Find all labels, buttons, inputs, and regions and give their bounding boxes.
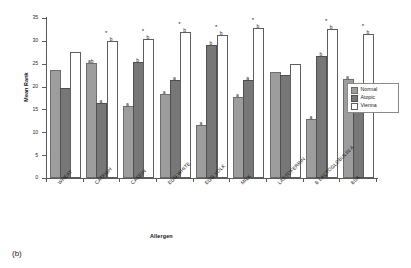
legend-swatch-atopic — [351, 95, 358, 102]
plot-area: abab*abb*aab*abb*aab*abb*aab* — [46, 18, 376, 178]
figure-container: 05101520253035 Mean Rank Allergen abab*a… — [0, 0, 411, 268]
bar-annotation-letter: b — [362, 30, 374, 35]
x-axis-tick — [193, 178, 194, 182]
significance-marker: * — [137, 28, 149, 34]
x-axis-tick — [376, 178, 377, 182]
significance-marker: * — [247, 17, 259, 23]
bar-group — [46, 18, 83, 178]
y-axis-tick-label: 25 — [0, 61, 38, 66]
x-axis-tick — [83, 178, 84, 182]
significance-marker: * — [320, 18, 332, 24]
significance-marker: * — [210, 24, 222, 30]
bar-annotation-letter: b — [325, 25, 337, 30]
y-axis-tick-label: 0 — [0, 175, 38, 180]
y-axis-tick-label: 15 — [0, 107, 38, 112]
bar-annotation-letter: a — [195, 121, 207, 126]
x-axis-title: Allergen — [150, 233, 173, 239]
bar-annotation-letter: a — [242, 76, 254, 81]
bar-annotation-letter: b — [315, 52, 327, 57]
bar-group: abb* — [119, 18, 156, 178]
bar-group: aab* — [229, 18, 266, 178]
legend-swatch-vienna — [351, 103, 358, 110]
bar-vienna — [217, 35, 228, 178]
x-axis-tick — [303, 178, 304, 182]
bar-annotation-letter: b — [132, 58, 144, 63]
legend-item-vienna: Vienna — [351, 102, 396, 110]
significance-marker: * — [357, 23, 369, 29]
legend-label-atopic: Atopic — [361, 95, 375, 100]
legend-item-normal: Normal — [351, 86, 396, 94]
legend-item-atopic: Atopic — [351, 94, 396, 102]
bar-annotation-letter: a — [95, 99, 107, 104]
bar-group: abb* — [303, 18, 340, 178]
bar-annotation-letter: b — [252, 24, 264, 29]
bar-annotation-letter: b — [105, 37, 117, 42]
bar-group — [266, 18, 303, 178]
bar-vienna — [143, 39, 154, 178]
bar-annotation-letter: ab — [85, 59, 97, 64]
bar-vienna — [180, 32, 191, 178]
bar-annotation-letter: a — [341, 75, 353, 80]
bar-annotation-letter: a — [121, 102, 133, 107]
significance-marker: * — [174, 21, 186, 27]
bar-vienna — [107, 41, 118, 178]
bar-annotation-letter: a — [305, 115, 317, 120]
y-axis-tick-label: 20 — [0, 84, 38, 89]
bar-group: abab* — [83, 18, 120, 178]
x-axis-tick — [266, 178, 267, 182]
bar-annotation-letter: b — [179, 28, 191, 33]
bar-group: abb* — [193, 18, 230, 178]
x-axis-tick — [119, 178, 120, 182]
x-axis-tick — [156, 178, 157, 182]
y-axis-tick-label: 35 — [0, 15, 38, 20]
legend-label-vienna: Vienna — [361, 103, 377, 108]
y-axis-tick-label: 5 — [0, 153, 38, 158]
bar-vienna — [70, 52, 81, 178]
y-axis-title: Mean Rank — [23, 57, 29, 117]
bar-group: aab* — [156, 18, 193, 178]
bar-annotation-letter: a — [158, 90, 170, 95]
figure-caption: (b) — [12, 249, 22, 258]
bar-vienna — [253, 28, 264, 178]
bar-annotation-letter: a — [168, 76, 180, 81]
significance-marker: * — [100, 30, 112, 36]
x-axis-tick — [339, 178, 340, 182]
legend-swatch-normal — [351, 87, 358, 94]
bar-annotation-letter: b — [205, 41, 217, 46]
chart-legend: Normal Atopic Vienna — [347, 83, 399, 113]
y-axis-tick-label: 30 — [0, 38, 38, 43]
bar-vienna — [327, 29, 338, 178]
x-axis-tick — [46, 178, 47, 182]
bar-annotation-letter: a — [231, 93, 243, 98]
bar-annotation-letter: b — [215, 31, 227, 36]
y-axis-tick-label: 10 — [0, 130, 38, 135]
legend-label-normal: Normal — [361, 87, 378, 92]
x-axis-tick — [229, 178, 230, 182]
bar-chart: 05101520253035 Mean Rank Allergen abab*a… — [0, 0, 411, 232]
bar-annotation-letter: b — [142, 35, 154, 40]
